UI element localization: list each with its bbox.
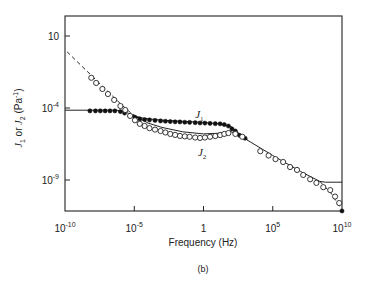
- j2-data-point: [202, 135, 207, 140]
- j1-data-point: [213, 122, 217, 126]
- j2-data-point: [168, 131, 173, 136]
- j1-data-point: [218, 122, 222, 126]
- y-axis-ticks: 1010-410-9: [42, 31, 70, 186]
- x-axis-title: Frequency (Hz): [169, 237, 238, 248]
- j2-data-point: [89, 75, 94, 80]
- j2-data-point: [233, 131, 238, 136]
- j2-data-point: [294, 167, 299, 172]
- j1-data-point: [93, 109, 97, 113]
- j2-data-point: [314, 180, 319, 185]
- j2-data-point: [281, 159, 286, 164]
- x-tick-label: 1010: [333, 221, 352, 234]
- j1-data-point: [208, 121, 212, 125]
- j2-data-point: [152, 127, 157, 132]
- j2-data-point: [266, 153, 271, 158]
- j1-data-point: [147, 118, 151, 122]
- j1-data-point: [178, 120, 182, 124]
- j2-data-point: [240, 134, 245, 139]
- j2-data-point: [321, 185, 326, 190]
- j2-data-point: [273, 157, 278, 162]
- j1-data-point: [173, 120, 177, 124]
- j2-data-point: [301, 172, 306, 177]
- j2-data-point: [177, 133, 182, 138]
- x-tick-label: 10-10: [54, 221, 75, 234]
- j1-data-point: [340, 209, 344, 213]
- j2-data-point: [132, 118, 137, 123]
- plot-border: [65, 16, 342, 211]
- j1-data-point: [168, 119, 172, 123]
- j2-data-point: [332, 194, 337, 199]
- j1-data-point: [183, 120, 187, 124]
- j2-data-point: [112, 97, 117, 102]
- j1-data-point: [103, 109, 107, 113]
- j1-data-point: [222, 122, 226, 126]
- x-axis-ticks: 10-1010-511051010: [54, 206, 351, 234]
- j2-data-point: [127, 113, 132, 118]
- j2-data-point: [173, 132, 178, 137]
- x-tick-label: 1: [201, 223, 207, 234]
- j1-data-point: [163, 119, 167, 123]
- j1-data-point: [153, 118, 157, 122]
- j1-data-point: [88, 109, 92, 113]
- series-label-j2: J2: [198, 146, 207, 161]
- y-axis-title: J1 or J2 (Pa-1): [12, 88, 26, 147]
- model-curves: [65, 52, 342, 210]
- j1-data-point: [193, 121, 197, 125]
- j1-data-point: [143, 117, 147, 121]
- j1-data-point: [138, 117, 142, 121]
- chart: 10-1010-511051010 1010-410-9 J1J2 Freque…: [0, 0, 366, 286]
- j2-data-point: [287, 164, 292, 169]
- j2-data-point: [308, 177, 313, 182]
- dashed-model-line: [67, 52, 140, 119]
- j2-data-point: [197, 135, 202, 140]
- j1-data-point: [108, 109, 112, 113]
- j1-data-point: [188, 120, 192, 124]
- j2-data-point: [187, 134, 192, 139]
- plot-frame: [65, 16, 342, 211]
- j2-data-point: [337, 200, 342, 205]
- j2-data-point: [94, 80, 99, 85]
- y-tick-label: 10-9: [42, 173, 59, 186]
- figure-caption: (b): [198, 264, 209, 274]
- j2-data-point: [163, 130, 168, 135]
- y-tick-label: 10: [48, 31, 60, 42]
- j1-data-point: [113, 109, 117, 113]
- j2-data-point: [213, 133, 218, 138]
- y-tick-label: 10-4: [42, 101, 59, 114]
- j2-data-point: [118, 103, 123, 108]
- x-tick-label: 105: [265, 221, 280, 234]
- j2-data-point: [258, 149, 263, 154]
- x-tick-label: 10-5: [126, 221, 143, 234]
- j2-data-point: [226, 130, 231, 135]
- j1-data-point: [226, 124, 230, 128]
- j1-data-point: [158, 119, 162, 123]
- j1-data-point: [118, 110, 122, 114]
- j2-data-point: [182, 134, 187, 139]
- data-markers: [88, 75, 344, 213]
- j2-data-point: [158, 128, 163, 133]
- svg-text:J1 or J2 (Pa-1): J1 or J2 (Pa-1): [12, 88, 26, 147]
- j2-data-point: [193, 135, 198, 140]
- j2-data-point: [100, 86, 105, 91]
- j1-data-point: [98, 109, 102, 113]
- j2-data-point: [123, 107, 128, 112]
- j2-data-point: [105, 91, 110, 96]
- j2-data-point: [147, 126, 152, 131]
- j2-data-point: [207, 134, 212, 139]
- j2-data-point: [328, 187, 333, 192]
